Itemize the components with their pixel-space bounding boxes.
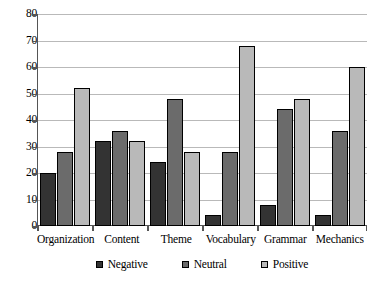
- x-axis-label: Content: [94, 232, 149, 246]
- bar: [222, 152, 238, 226]
- x-tick-mark: [312, 226, 314, 231]
- bar-group: [257, 14, 312, 226]
- x-tick-mark: [202, 226, 204, 231]
- bar-chart: 80706050403020100 OrganizationContentThe…: [0, 0, 380, 281]
- bar-group: [202, 14, 257, 226]
- x-axis-label: Organization: [37, 232, 94, 246]
- bar: [205, 215, 221, 226]
- bar-group: [37, 14, 92, 226]
- x-axis-labels: OrganizationContentThemeVocabularyGramma…: [37, 232, 367, 246]
- bar: [277, 109, 293, 226]
- bar-group: [147, 14, 202, 226]
- x-axis-label: Grammar: [258, 232, 313, 246]
- legend-label: Neutral: [194, 258, 227, 270]
- legend-swatch-positive: [261, 261, 268, 268]
- x-tick-mark: [257, 226, 259, 231]
- legend-swatch-negative: [96, 261, 103, 268]
- bar-group: [312, 14, 367, 226]
- x-axis-label: Mechanics: [313, 232, 368, 246]
- x-tick-mark: [92, 226, 94, 231]
- bar: [74, 88, 90, 226]
- x-tick-mark: [366, 226, 368, 231]
- x-tick-mark: [147, 226, 149, 231]
- bar: [184, 152, 200, 226]
- legend-swatch-neutral: [182, 261, 189, 268]
- y-axis: 80706050403020100: [0, 0, 37, 281]
- bar: [332, 131, 348, 226]
- bar: [95, 141, 111, 226]
- legend-item[interactable]: Positive: [261, 258, 308, 270]
- bar: [40, 173, 56, 226]
- bar: [57, 152, 73, 226]
- legend-label: Negative: [108, 258, 148, 270]
- x-tick-mark: [37, 226, 39, 231]
- bar: [349, 67, 365, 226]
- bar: [260, 205, 276, 226]
- bar: [112, 131, 128, 226]
- x-axis-label: Vocabulary: [203, 232, 258, 246]
- bar: [129, 141, 145, 226]
- legend-label: Positive: [273, 258, 308, 270]
- x-axis-label: Theme: [149, 232, 204, 246]
- bar: [167, 99, 183, 226]
- legend-item[interactable]: Negative: [96, 258, 148, 270]
- bar: [150, 162, 166, 226]
- bar-group: [92, 14, 147, 226]
- bar: [294, 99, 310, 226]
- bar: [239, 46, 255, 226]
- bar: [315, 215, 331, 226]
- chart-legend: NegativeNeutralPositive: [37, 258, 367, 270]
- bar-groups: [37, 14, 367, 226]
- legend-item[interactable]: Neutral: [182, 258, 227, 270]
